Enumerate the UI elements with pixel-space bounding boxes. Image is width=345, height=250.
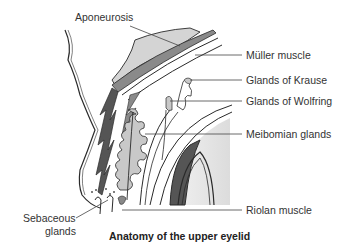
sebaceous-glands [91,188,126,214]
meibomian-gland [115,109,147,190]
eyelid-anatomy-diagram: Aponeurosis Müller muscle Glands of Krau… [0,0,345,250]
gland-wolfring [166,96,172,110]
figure-caption: Anatomy of the upper eyelid [109,230,250,242]
label-aponeurosis: Aponeurosis [75,11,133,23]
label-meibomian-glands: Meibomian glands [246,128,331,140]
label-glands-wolfring: Glands of Wolfring [246,95,332,107]
label-riolan-muscle: Riolan muscle [246,204,312,216]
label-glands-krause: Glands of Krause [246,74,327,86]
orbicularis-muscle [96,88,118,195]
label-sebaceous-line2: glands [45,225,76,237]
label-muller-muscle: Müller muscle [246,49,311,61]
label-sebaceous-line1: Sebaceous [23,212,76,224]
